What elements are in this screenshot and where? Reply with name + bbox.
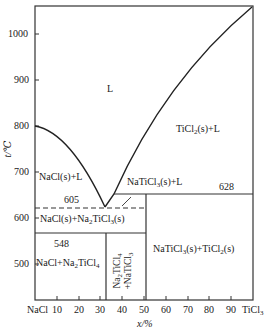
region-liquid-label: L: [107, 84, 113, 94]
temperature-628-label: 628: [219, 182, 234, 192]
x-tick-40: 40: [117, 305, 127, 315]
region-na2ticl4-naticl3-label: Na2TiCl4 +NaTiCl3: [113, 243, 139, 299]
x-right-component: TiCl3: [242, 305, 263, 317]
x-left-component: NaCl: [27, 305, 48, 315]
y-tick-800: 800: [14, 121, 29, 131]
temperature-605-label: 605: [64, 195, 79, 205]
x-tick-50: 50: [139, 305, 149, 315]
x-tick-20: 20: [74, 305, 84, 315]
y-tick-1000: 1000: [8, 29, 28, 39]
x-tick-10: 10: [52, 305, 62, 315]
region-naticl3-ticl2-label: NaTiCl3(s)+TiCl2(s): [153, 244, 234, 256]
x-tick-60: 60: [161, 305, 171, 315]
region-nacl-na2ticl3-label: NaCl(s)+Na2TiCl3(s): [40, 214, 125, 226]
x-tick-30: 30: [95, 305, 105, 315]
y-tick-600: 600: [14, 213, 29, 223]
region-nacl-na2ticl4-label: NaCl+Na2TiCl4: [36, 258, 99, 270]
region-nacl-liquid-label: NaCl(s)+L: [39, 172, 82, 182]
y-tick-900: 900: [14, 75, 29, 85]
y-axis-label: t/℃: [3, 141, 13, 158]
region-naticl3-liquid-label: NaTiCl3(s)+L: [127, 177, 182, 189]
y-tick-500: 500: [14, 259, 29, 269]
region-ticl2-liquid-label: TiCl2(s)+L: [176, 124, 220, 136]
temperature-548-label: 548: [54, 239, 69, 249]
y-tick-700: 700: [14, 167, 29, 177]
x-tick-70: 70: [183, 305, 193, 315]
x-axis-label: x/%: [137, 319, 153, 329]
label-leader-line: [122, 197, 131, 206]
x-tick-80: 80: [204, 305, 214, 315]
x-tick-90: 90: [226, 305, 236, 315]
